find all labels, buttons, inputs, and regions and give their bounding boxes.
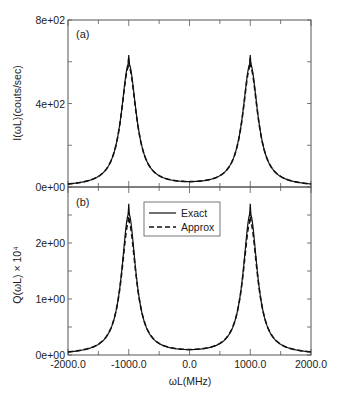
y-tick-label: 0e+00 — [36, 181, 66, 193]
y-axis-label-a: I(ωL)(couts/sec) — [11, 65, 23, 140]
chart-figure: 0e+004e+028e+020e+001e+002e+00-2000.0-10… — [0, 0, 342, 400]
panel-b-label: (b) — [76, 196, 89, 208]
curve-exact-panel-a — [68, 55, 311, 184]
x-axis-label: ωL(MHz) — [169, 375, 212, 387]
x-tick-label: 1000.0 — [234, 358, 266, 370]
legend: Exact Approx — [144, 202, 220, 236]
y-axis-label-b: Q(ωL) × 10⁴ — [11, 246, 23, 303]
x-tick-label: 2000.0 — [295, 358, 327, 370]
x-tick-label: -2000.0 — [50, 358, 86, 370]
y-tick-label: 1e+00 — [36, 293, 66, 305]
tick-labels: 0e+004e+028e+020e+001e+002e+00-2000.0-10… — [36, 14, 328, 370]
legend-exact-label: Exact — [181, 207, 207, 219]
y-tick-label: 4e+02 — [36, 98, 66, 110]
y-tick-label: 8e+02 — [36, 14, 66, 26]
x-tick-label: -1000.0 — [111, 358, 147, 370]
panel-a-frame — [68, 20, 311, 187]
panel-a-label: (a) — [76, 28, 89, 40]
x-tick-label: 0.0 — [182, 358, 197, 370]
legend-approx-label: Approx — [181, 221, 215, 233]
curve-approx-panel-a — [68, 58, 311, 184]
y-tick-label: 2e+00 — [36, 237, 66, 249]
chart-svg: 0e+004e+028e+020e+001e+002e+00-2000.0-10… — [0, 0, 342, 400]
